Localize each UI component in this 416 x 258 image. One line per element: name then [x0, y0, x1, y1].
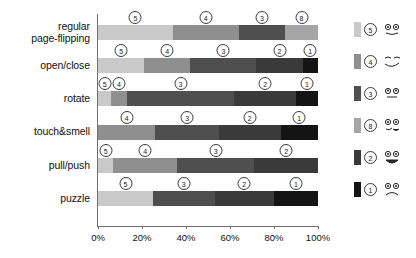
bar-segment[interactable]: [98, 91, 111, 106]
segment-rating-badge: 3: [209, 144, 222, 157]
bar-segment[interactable]: [153, 191, 215, 206]
category-label-line: touch&smell: [0, 126, 90, 138]
bar-segment[interactable]: [219, 125, 281, 140]
bar-segment[interactable]: [173, 25, 239, 40]
x-axis-tick-label: 100%: [306, 232, 330, 243]
legend-row[interactable]: 4: [352, 50, 416, 72]
bar-segment[interactable]: [98, 191, 153, 206]
segment-rating-badge: 3: [217, 44, 230, 57]
plot-area: 0%20%40%60%80%100%5438543215432143215432…: [98, 14, 318, 226]
bar-segment[interactable]: [239, 25, 285, 40]
bar-segment[interactable]: [256, 58, 302, 73]
bar-segment[interactable]: [113, 158, 177, 173]
x-axis-tick-label: 20%: [132, 232, 151, 243]
bar-row[interactable]: [98, 58, 318, 73]
segment-rating-badge: 2: [273, 44, 286, 57]
bar-row[interactable]: [98, 91, 318, 106]
segment-rating-badge: 4: [199, 11, 212, 24]
legend-color-swatch: [354, 86, 361, 101]
x-axis-tick-label: 60%: [220, 232, 239, 243]
legend-rating-badge: 4: [364, 55, 377, 68]
category-label-line: regular: [0, 21, 90, 33]
face-surprised-icon: [380, 20, 404, 39]
bar-row[interactable]: [98, 158, 318, 173]
category-label: rotate: [0, 93, 90, 105]
category-label: touch&smell: [0, 126, 90, 138]
legend-rating-badge: 5: [364, 23, 377, 36]
face-open-mouth-icon: [380, 148, 404, 167]
segment-rating-badge: 3: [177, 177, 190, 190]
bar-segment[interactable]: [215, 191, 274, 206]
bar-segment[interactable]: [111, 91, 126, 106]
x-axis-line: [97, 226, 319, 227]
x-axis-tick: [318, 226, 319, 229]
segment-rating-badge: 2: [243, 111, 256, 124]
bar-segment[interactable]: [281, 125, 318, 140]
bar-segment[interactable]: [155, 125, 219, 140]
legend-rating-badge: 8: [364, 119, 377, 132]
segment-rating-badge: 1: [293, 111, 306, 124]
x-axis-tick: [142, 226, 143, 229]
bar-row[interactable]: [98, 125, 318, 140]
legend-row[interactable]: 8: [352, 114, 416, 136]
bar-segment[interactable]: [177, 158, 254, 173]
legend-rating-badge: 1: [364, 183, 377, 196]
legend-rating-badge: 3: [364, 87, 377, 100]
segment-rating-badge: 5: [115, 44, 128, 57]
bar-row[interactable]: [98, 25, 318, 40]
segment-rating-badge: 5: [99, 144, 112, 157]
bar-segment[interactable]: [127, 91, 235, 106]
bar-segment[interactable]: [296, 91, 318, 106]
segment-rating-badge: 2: [259, 77, 272, 90]
x-axis-tick: [274, 226, 275, 229]
category-label-line: rotate: [0, 93, 90, 105]
bar-segment[interactable]: [98, 25, 173, 40]
legend-row[interactable]: 2: [352, 146, 416, 168]
legend-row[interactable]: 3: [352, 82, 416, 104]
legend-rating-badge: 2: [364, 151, 377, 164]
bar-segment[interactable]: [234, 91, 296, 106]
segment-rating-badge: 5: [119, 177, 132, 190]
category-label: regularpage-flipping: [0, 21, 90, 44]
bar-segment[interactable]: [144, 58, 190, 73]
legend-color-swatch: [354, 150, 361, 165]
bar-segment[interactable]: [98, 125, 155, 140]
category-label: open/close: [0, 60, 90, 72]
bar-segment[interactable]: [98, 158, 113, 173]
bar-segment[interactable]: [190, 58, 256, 73]
segment-rating-badge: 1: [290, 177, 303, 190]
segment-rating-badge: 4: [112, 77, 125, 90]
bar-segment[interactable]: [254, 158, 318, 173]
segment-rating-badge: 4: [161, 44, 174, 57]
category-label: puzzle: [0, 193, 90, 205]
bar-row[interactable]: [98, 191, 318, 206]
legend-row[interactable]: 1: [352, 178, 416, 200]
face-sad-icon: [380, 180, 404, 199]
bar-segment[interactable]: [98, 58, 144, 73]
segment-rating-badge: 3: [255, 11, 268, 24]
segment-rating-badge: 4: [120, 111, 133, 124]
bar-segment[interactable]: [274, 191, 318, 206]
segment-rating-badge: 1: [301, 77, 314, 90]
category-label: pull/push: [0, 160, 90, 172]
legend-color-swatch: [354, 118, 361, 133]
x-axis-tick: [230, 226, 231, 229]
bar-segment[interactable]: [303, 58, 318, 73]
stacked-bar-chart: regularpage-flippingopen/closerotatetouc…: [0, 0, 416, 258]
x-axis-tick: [98, 226, 99, 229]
x-axis-tick: [186, 226, 187, 229]
segment-rating-badge: 3: [181, 111, 194, 124]
face-confused-icon: [380, 116, 404, 135]
segment-rating-badge: 1: [304, 44, 317, 57]
x-axis-tick-label: 80%: [264, 232, 283, 243]
bar-segment[interactable]: [285, 25, 318, 40]
x-axis-tick-label: 0%: [91, 232, 105, 243]
legend-color-swatch: [354, 54, 361, 69]
segment-rating-badge: 5: [98, 77, 111, 90]
legend-color-swatch: [354, 22, 361, 37]
category-label-line: page-flipping: [0, 33, 90, 45]
legend-row[interactable]: 5: [352, 18, 416, 40]
face-neutral-icon: [380, 84, 404, 103]
category-axis-labels: regularpage-flippingopen/closerotatetouc…: [0, 14, 94, 226]
segment-rating-badge: 2: [238, 177, 251, 190]
